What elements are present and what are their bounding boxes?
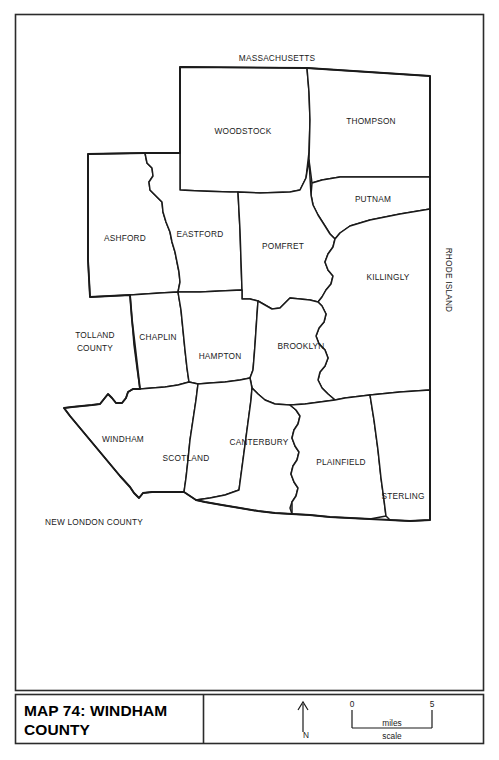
town-label-plainfield: PLAINFIELD [316, 457, 366, 467]
scale-max-label: 5 [430, 699, 435, 709]
town-label-pomfret: POMFRET [262, 241, 304, 251]
north-arrow-icon [298, 702, 308, 732]
map-title-line2: COUNTY [24, 721, 91, 738]
neighbor-label-tolland-county-line2: COUNTY [77, 343, 113, 353]
town-label-putnam: PUTNAM [355, 194, 391, 204]
windham-county-map: WOODSTOCK THOMPSON PUTNAM ASHFORD EASTFO… [0, 0, 499, 760]
town-label-windham: WINDHAM [102, 434, 144, 444]
town-shape-brooklyn [250, 298, 335, 405]
neighbor-label-massachusetts: MASSACHUSETTS [239, 53, 316, 63]
map-title-line1: MAP 74: WINDHAM [24, 702, 167, 719]
town-label-thompson: THOMPSON [346, 116, 396, 126]
town-label-woodstock: WOODSTOCK [215, 126, 272, 136]
scale-min-label: 0 [350, 699, 355, 709]
town-label-killingly: KILLINGLY [366, 272, 409, 282]
town-label-eastford: EASTFORD [177, 229, 224, 239]
town-label-brooklyn: BROOKLYN [277, 341, 324, 351]
town-label-scotland: SCOTLAND [163, 453, 210, 463]
town-label-hampton: HAMPTON [199, 351, 242, 361]
town-label-chaplin: CHAPLIN [139, 332, 176, 342]
town-label-sterling: STERLING [381, 491, 424, 501]
town-label-canterbury: CANTERBURY [229, 437, 288, 447]
scale-units-label: miles [382, 718, 401, 728]
neighbor-label-rhode-island: RHODE ISLAND [444, 248, 454, 313]
town-label-ashford: ASHFORD [104, 233, 146, 243]
north-arrow-label: N [303, 730, 309, 740]
scale-caption-label: scale [382, 731, 402, 741]
neighbor-label-tolland-county-line1: TOLLAND [75, 330, 115, 340]
map-page: WOODSTOCK THOMPSON PUTNAM ASHFORD EASTFO… [0, 0, 499, 760]
town-shape-hampton [178, 290, 258, 384]
neighbor-label-new-london-county: NEW LONDON COUNTY [45, 517, 143, 527]
